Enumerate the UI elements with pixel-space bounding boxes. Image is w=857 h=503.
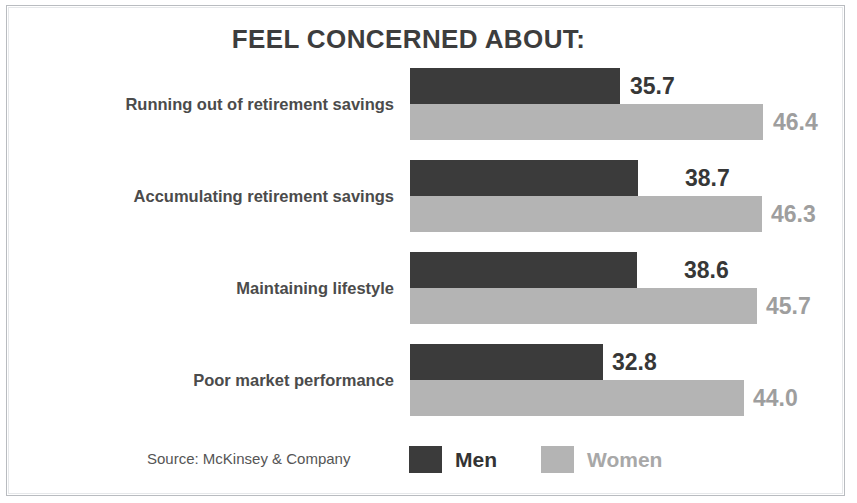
bar-value-women: 44.0 — [753, 385, 798, 412]
bar-group: Maintaining lifestyle 38.6 45.7 — [0, 252, 857, 324]
bar-men — [410, 252, 637, 288]
bar-men — [410, 68, 620, 104]
bar-value-women: 45.7 — [766, 293, 811, 320]
legend-item-men: Men — [409, 446, 497, 473]
bar-value-men: 35.7 — [630, 73, 675, 100]
category-label: Running out of retirement savings — [14, 95, 394, 114]
category-label: Poor market performance — [14, 371, 394, 390]
bar-men — [410, 344, 603, 380]
bar-value-women: 46.3 — [771, 201, 816, 228]
legend-swatch-men — [409, 446, 442, 473]
bar-value-women: 46.4 — [773, 109, 818, 136]
chart-title: FEEL CONCERNED ABOUT: — [0, 24, 857, 55]
bar-women — [410, 288, 757, 324]
bar-women — [410, 196, 762, 232]
bar-group: Accumulating retirement savings 38.7 46.… — [0, 160, 857, 232]
legend-swatch-women — [541, 446, 574, 473]
category-label: Maintaining lifestyle — [14, 279, 394, 298]
chart-footer: Source: McKinsey & Company Men Women — [0, 440, 857, 486]
bar-value-men: 32.8 — [612, 349, 657, 376]
bar-value-men: 38.6 — [684, 257, 729, 284]
chart-canvas: FEEL CONCERNED ABOUT: Running out of ret… — [0, 0, 857, 503]
bar-group: Poor market performance 32.8 44.0 — [0, 344, 857, 416]
bar-men — [410, 160, 638, 196]
bar-group: Running out of retirement savings 35.7 4… — [0, 68, 857, 140]
legend-item-women: Women — [541, 446, 662, 473]
bar-women — [410, 380, 744, 416]
plot-area: Running out of retirement savings 35.7 4… — [0, 68, 857, 436]
legend-label-women: Women — [587, 448, 662, 472]
legend-label-men: Men — [455, 448, 497, 472]
bar-women — [410, 104, 763, 140]
category-label: Accumulating retirement savings — [14, 187, 394, 206]
source-attribution: Source: McKinsey & Company — [147, 450, 350, 467]
bar-value-men: 38.7 — [685, 165, 730, 192]
